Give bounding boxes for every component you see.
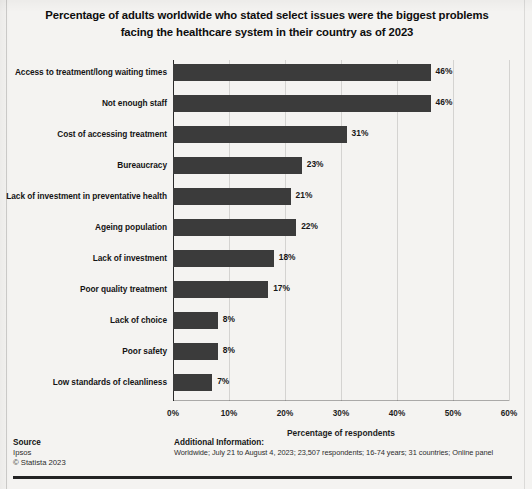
chart-canvas: Access to treatment/long waiting timesNo… xyxy=(12,58,520,410)
bar[interactable] xyxy=(173,312,218,329)
bar-row: 23% xyxy=(173,157,509,174)
bar-row: 7% xyxy=(173,374,509,391)
chart-footer: Source Ipsos © Statista 2023 Additional … xyxy=(0,432,532,489)
source-name: Ipsos xyxy=(13,448,163,458)
category-label: Access to treatment/long waiting times xyxy=(0,67,167,77)
gridline xyxy=(509,60,510,401)
category-label: Bureaucracy xyxy=(0,160,167,170)
bar-row: 21% xyxy=(173,188,509,205)
bar-row: 46% xyxy=(173,64,509,81)
category-label: Poor quality treatment xyxy=(0,284,167,294)
bar[interactable] xyxy=(173,126,347,143)
bar[interactable] xyxy=(173,64,431,81)
additional-information-text: Worldwide; July 21 to August 4, 2023; 23… xyxy=(174,448,522,458)
chart-title-line-2: facing the healthcare system in their co… xyxy=(24,24,510,41)
bar-value-label: 18% xyxy=(279,252,296,262)
footer-rule xyxy=(13,476,512,479)
bar-value-label: 17% xyxy=(273,283,290,293)
bar[interactable] xyxy=(173,188,291,205)
category-label: Cost of accessing treatment xyxy=(0,129,167,139)
bar-value-label: 23% xyxy=(307,159,324,169)
bar[interactable] xyxy=(173,343,218,360)
bar[interactable] xyxy=(173,250,274,267)
additional-information-block: Additional Information: Worldwide; July … xyxy=(174,437,522,458)
bar-value-label: 46% xyxy=(436,66,453,76)
bar[interactable] xyxy=(173,157,302,174)
bar-row: 17% xyxy=(173,281,509,298)
source-block: Source Ipsos © Statista 2023 xyxy=(13,437,163,468)
bar[interactable] xyxy=(173,95,431,112)
bar-row: 8% xyxy=(173,312,509,329)
category-label: Ageing population xyxy=(0,222,167,232)
bar-row: 22% xyxy=(173,219,509,236)
category-label: Low standards of cleanliness xyxy=(0,377,167,387)
bar-value-label: 7% xyxy=(217,376,229,386)
bar-value-label: 31% xyxy=(352,128,369,138)
chart-page: Percentage of adults worldwide who state… xyxy=(0,0,532,489)
source-heading: Source xyxy=(13,437,163,448)
chart-title: Percentage of adults worldwide who state… xyxy=(24,7,510,41)
bar-row: 31% xyxy=(173,126,509,143)
bar-value-label: 46% xyxy=(436,97,453,107)
category-label: Not enough staff xyxy=(0,98,167,108)
category-label: Poor safety xyxy=(0,346,167,356)
additional-information-heading: Additional Information: xyxy=(174,437,522,448)
bar-row: 18% xyxy=(173,250,509,267)
bar[interactable] xyxy=(173,374,212,391)
bar-value-label: 8% xyxy=(223,345,235,355)
x-tick-label: 30% xyxy=(333,409,349,418)
x-tick-label: 60% xyxy=(501,409,517,418)
category-label: Lack of investment xyxy=(0,253,167,263)
x-tick-label: 10% xyxy=(221,409,237,418)
category-axis-labels: Access to treatment/long waiting timesNo… xyxy=(12,60,167,408)
plot-area: 46%46%31%23%21%22%18%17%8%8%7% xyxy=(173,60,509,408)
bar-value-label: 21% xyxy=(296,190,313,200)
bar-value-label: 22% xyxy=(301,221,318,231)
bar-row: 46% xyxy=(173,95,509,112)
chart-title-line-1: Percentage of adults worldwide who state… xyxy=(24,7,510,24)
x-tick-label: 50% xyxy=(445,409,461,418)
bar-value-label: 8% xyxy=(223,314,235,324)
bar-row: 8% xyxy=(173,343,509,360)
x-tick-label: 40% xyxy=(389,409,405,418)
page-border-right xyxy=(524,0,525,489)
category-label: Lack of choice xyxy=(0,315,167,325)
copyright-text: © Statista 2023 xyxy=(13,458,163,468)
bar[interactable] xyxy=(173,281,268,298)
x-tick-label: 20% xyxy=(277,409,293,418)
category-label: Lack of investment in preventative healt… xyxy=(0,191,167,201)
x-tick-label: 0% xyxy=(167,409,179,418)
bar[interactable] xyxy=(173,219,296,236)
